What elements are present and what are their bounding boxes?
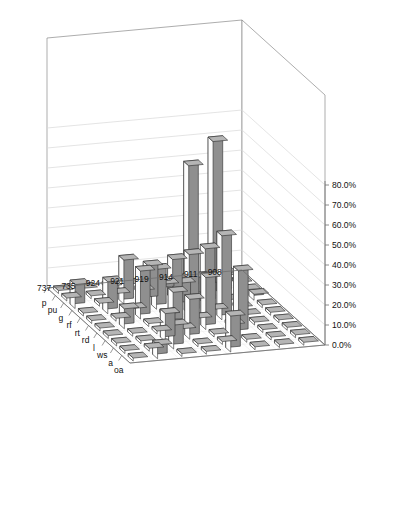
y-tick-label: 40.0%: [332, 260, 357, 270]
z-series-label: 919: [135, 274, 149, 284]
y-tick-label: 50.0%: [332, 240, 357, 250]
y-tick-label: 60.0%: [332, 220, 357, 230]
x-category-label: a: [108, 358, 113, 368]
z-series-label: 911: [184, 269, 198, 279]
x-category-label: p: [42, 298, 47, 308]
bar-735-oa: [153, 339, 173, 359]
z-series-label: 908: [208, 267, 222, 277]
bar-908-rf: [249, 288, 269, 300]
x-category-label: g: [58, 313, 63, 323]
y-tick-label: 0.0%: [332, 340, 352, 350]
x-category-label: l: [93, 343, 95, 353]
z-series-label: 737: [37, 283, 51, 293]
z-series-label: 924: [86, 278, 100, 288]
chart-canvas: 0.0%10.0%20.0%30.0%40.0%50.0%60.0%70.0%8…: [0, 0, 401, 508]
x-category-label: pu: [48, 305, 58, 315]
y-tick-label: 70.0%: [332, 200, 357, 210]
z-series-label: 914: [159, 272, 173, 282]
y-tick-label: 20.0%: [332, 300, 357, 310]
x-category-label: rt: [75, 328, 81, 338]
x-category-label: rd: [82, 335, 90, 345]
y-tick-label: 10.0%: [332, 320, 357, 330]
y-axis-ticks: 0.0%10.0%20.0%30.0%40.0%50.0%60.0%70.0%8…: [325, 180, 357, 350]
back-right-wall: [242, 20, 325, 345]
y-tick-label: 30.0%: [332, 280, 357, 290]
z-series-label: 735: [61, 281, 75, 291]
z-series-label: 921: [110, 276, 124, 286]
y-tick-label: 80.0%: [332, 180, 357, 190]
x-category-label: ws: [96, 350, 107, 360]
chart-3d-bar: 0.0%10.0%20.0%30.0%40.0%50.0%60.0%70.0%8…: [0, 0, 401, 508]
x-category-label: oa: [114, 365, 124, 375]
x-category-label: rf: [66, 320, 72, 330]
